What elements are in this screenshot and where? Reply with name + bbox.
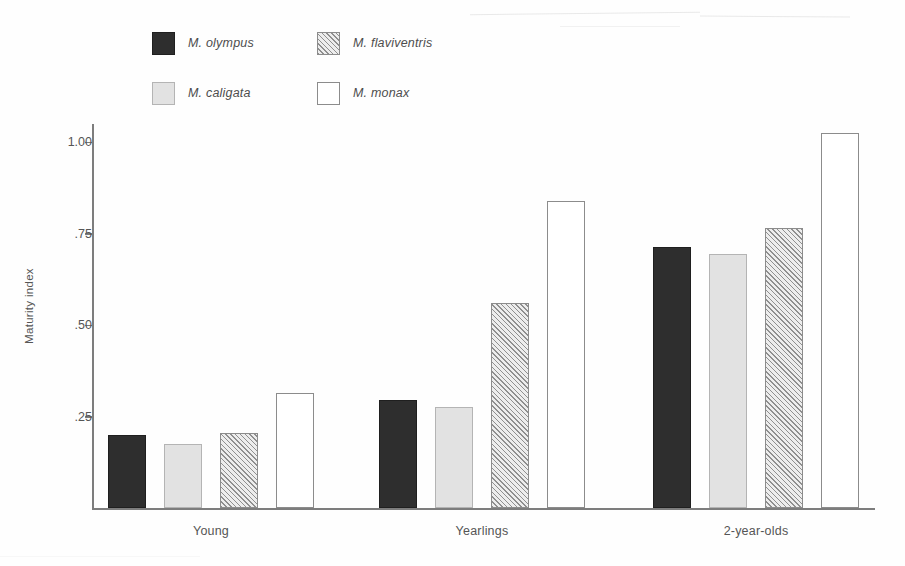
y-tick-label-text: 1.00 [46,135,92,149]
bar-2-year-olds-m-monax [821,133,859,508]
bar-yearlings-m-monax [547,201,585,508]
y-tick-label-text: .25 [46,410,92,424]
x-axis-label-2-year-olds: 2-year-olds [653,524,859,538]
y-tick-label-text: .75 [46,227,92,241]
bar-young-m-monax [276,393,314,508]
bar-young-m-flaviventris [220,433,258,508]
y-tick-label: .75 [32,227,92,241]
bar-yearlings-m-olympus [379,400,417,508]
x-axis-line [92,508,875,510]
bar-young-m-olympus [108,435,146,508]
bar-yearlings-m-flaviventris [491,303,529,508]
y-axis-line [92,124,94,509]
x-axis-label-young: Young [108,524,314,538]
bar-2-year-olds-m-olympus [653,247,691,508]
plot-area: Maturity index .25.50.751.00 YoungYearli… [0,0,905,566]
figure-canvas: M. olympus M. flaviventris M. caligata M… [0,0,905,566]
bar-yearlings-m-caligata [435,407,473,508]
bar-2-year-olds-m-caligata [709,254,747,508]
x-axis-label-yearlings: Yearlings [379,524,585,538]
y-axis-title: Maturity index [23,246,35,366]
bar-2-year-olds-m-flaviventris [765,228,803,508]
y-tick-label-text: .50 [46,318,92,332]
y-tick-label: .50 [32,318,92,332]
y-tick-label: .25 [32,410,92,424]
y-tick-label: 1.00 [32,135,92,149]
bar-young-m-caligata [164,444,202,508]
